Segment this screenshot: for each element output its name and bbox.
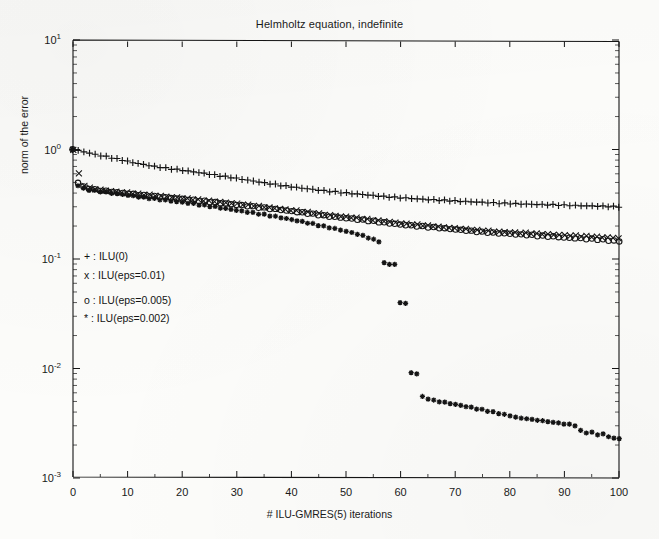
legend-entry-ilu-eps-001: x : ILU(eps=0.01) (84, 269, 165, 281)
svg-text:40: 40 (285, 486, 297, 498)
svg-text:80: 80 (504, 486, 516, 498)
y-axis-tick-labels: 10110010-110-210-3 (42, 32, 62, 484)
svg-text:100: 100 (44, 142, 61, 156)
svg-text:90: 90 (558, 486, 570, 498)
svg-text:101: 101 (44, 32, 61, 46)
svg-text:20: 20 (176, 486, 188, 498)
legend-entry-ilu0: + : ILU(0) (84, 250, 128, 262)
figure-page: Helmholtz equation, indefinite norm of t… (0, 0, 659, 539)
svg-text:10-3: 10-3 (42, 470, 62, 484)
plot-frame (73, 40, 619, 478)
y-axis-ticks (73, 40, 619, 478)
svg-text:10-2: 10-2 (42, 361, 62, 375)
x-axis-tick-labels: 0102030405060708090100 (70, 486, 628, 498)
series-+ (69, 146, 622, 210)
legend-entry-ilu-eps-0002: * : ILU(eps=0.002) (84, 312, 170, 324)
svg-text:70: 70 (449, 486, 461, 498)
legend-entry-ilu-eps-0005: o : ILU(eps=0.005) (84, 294, 171, 306)
svg-text:30: 30 (231, 486, 243, 498)
svg-text:100: 100 (610, 486, 628, 498)
x-axis-ticks (73, 42, 619, 478)
svg-text:60: 60 (394, 486, 406, 498)
svg-text:50: 50 (340, 486, 352, 498)
svg-text:10: 10 (121, 486, 133, 498)
svg-text:10-1: 10-1 (42, 251, 62, 265)
svg-text:0: 0 (70, 486, 76, 498)
